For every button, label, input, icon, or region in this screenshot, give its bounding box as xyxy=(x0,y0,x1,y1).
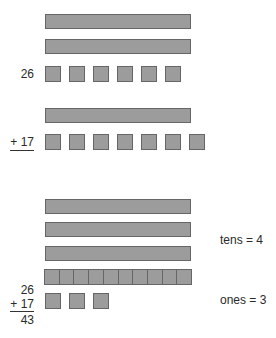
unit-cube xyxy=(69,293,85,309)
rod-segment xyxy=(74,270,89,284)
unit-cube xyxy=(141,134,157,150)
unit-cube xyxy=(69,66,85,82)
ones-count-label: ones = 3 xyxy=(220,293,266,307)
unit-cube xyxy=(93,134,109,150)
sum-addend-26: 26 xyxy=(0,283,34,297)
tens-count-label: tens = 4 xyxy=(220,233,263,247)
unit-cube xyxy=(117,134,133,150)
unit-cube xyxy=(117,66,133,82)
unit-cube xyxy=(165,134,181,150)
rod-segment xyxy=(45,270,60,284)
tens-rod xyxy=(45,199,191,214)
unit-cube xyxy=(45,293,61,309)
addend-26-label: 26 xyxy=(0,67,34,81)
underline xyxy=(10,150,34,151)
rod-segment xyxy=(133,270,148,284)
rod-segment xyxy=(104,270,119,284)
tens-rod xyxy=(45,14,191,29)
sum-addend-17: + 17 xyxy=(0,297,34,311)
rod-segment xyxy=(148,270,163,284)
unit-cube xyxy=(93,293,109,309)
rod-segment xyxy=(60,270,75,284)
tens-rod xyxy=(45,222,191,237)
unit-cube xyxy=(165,66,181,82)
unit-cube xyxy=(45,66,61,82)
unit-cube xyxy=(189,134,205,150)
tens-rod xyxy=(45,108,191,123)
rod-segment xyxy=(119,270,134,284)
unit-cube xyxy=(45,134,61,150)
regrouped-ten-rod xyxy=(44,269,192,285)
tens-rod xyxy=(45,39,191,54)
tens-rod xyxy=(45,246,191,261)
unit-cube xyxy=(69,134,85,150)
addend-17-label: + 17 xyxy=(0,135,34,149)
unit-cube xyxy=(93,66,109,82)
rod-segment xyxy=(163,270,178,284)
rod-segment xyxy=(89,270,104,284)
sum-line xyxy=(10,311,34,312)
unit-cube xyxy=(141,66,157,82)
sum-result-43: 43 xyxy=(0,313,34,327)
rod-segment xyxy=(177,270,191,284)
